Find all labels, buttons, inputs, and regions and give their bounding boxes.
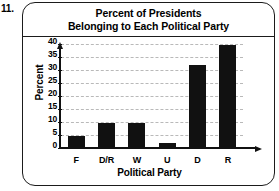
item-number: 11. (1, 3, 14, 14)
plot-area: Percent 0510152025303540 FD/RWUDR Politi… (23, 37, 276, 185)
y-axis-tick-label: 10 (48, 115, 57, 123)
bar (128, 123, 145, 149)
x-axis-tick-label: D (182, 155, 212, 165)
x-axis-tick-label: R (213, 155, 243, 165)
bar (98, 123, 115, 149)
chart-axes (59, 41, 265, 153)
y-axis-tick-label: 5 (52, 128, 57, 136)
y-axis-tick-labels: 0510152025303540 (37, 45, 57, 149)
bar (68, 136, 85, 149)
chart-page: 11. Percent of Presidents Belonging to E… (0, 0, 279, 191)
bar (189, 65, 206, 150)
chart-title-line-2: Belonging to Each Political Party (68, 20, 229, 33)
bar (219, 45, 236, 149)
y-axis-tick-label: 0 (52, 141, 57, 149)
x-axis-tick-label: F (61, 155, 91, 165)
x-axis-tick-label: D/R (91, 155, 121, 165)
x-axis-tick-labels: FD/RWUDR (61, 155, 243, 167)
y-axis-tick-label: 20 (48, 89, 57, 97)
bar-series (61, 45, 243, 149)
chart-title: Percent of Presidents Belonging to Each … (23, 3, 274, 37)
y-axis-tick-label: 35 (48, 50, 57, 58)
chart-title-line-1: Percent of Presidents (96, 7, 202, 20)
chart-card: Percent of Presidents Belonging to Each … (22, 2, 275, 186)
y-axis-tick-label: 25 (48, 76, 57, 84)
bar (159, 143, 176, 150)
x-axis-label: Political Party (23, 167, 276, 178)
x-axis-tick-label: W (122, 155, 152, 165)
y-axis-tick-label: 15 (48, 102, 57, 110)
x-axis-arrow-icon (255, 146, 262, 152)
y-axis-tick-label: 30 (48, 63, 57, 71)
x-axis-tick-label: U (152, 155, 182, 165)
